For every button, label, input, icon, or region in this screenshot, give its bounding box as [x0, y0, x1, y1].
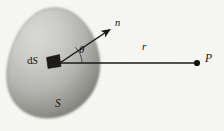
- label-area-element-ds: dS: [27, 55, 38, 66]
- label-field-point-p: P: [205, 53, 212, 65]
- label-ds-symbol: S: [32, 54, 37, 66]
- label-normal-vector-n: n: [115, 18, 120, 29]
- label-angle-theta: θ: [79, 44, 84, 55]
- label-surface-s: S: [55, 98, 61, 110]
- field-point-dot: [194, 60, 200, 66]
- label-radius-vector-r: r: [142, 41, 146, 52]
- figure-canvas: dS n θ r P S: [0, 0, 224, 131]
